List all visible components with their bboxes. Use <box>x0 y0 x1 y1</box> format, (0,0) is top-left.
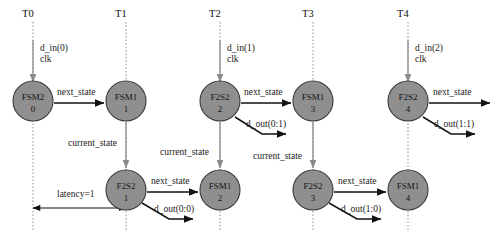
state-node-f2s2-2[interactable]: F2S22 <box>200 81 240 121</box>
state-node-index: 4 <box>406 193 411 203</box>
next-state-label-3: next_state <box>151 176 190 186</box>
state-node-fsm1-2[interactable]: FSM12 <box>200 170 240 210</box>
state-node-name: FSM1 <box>302 92 325 102</box>
data-output-label-2: d_out(0:0) <box>154 204 194 215</box>
state-node-f2s2-3[interactable]: F2S23 <box>293 170 333 210</box>
input-data-label-0: d_in(0) <box>40 43 68 54</box>
state-node-name: FSM2 <box>22 92 45 102</box>
state-node-name: F2S2 <box>210 92 229 102</box>
timeline-tick-label-t1: T1 <box>115 8 127 19</box>
diagram-canvas: d_in(0)clkd_in(1)clkd_in(2)clk current_s… <box>0 0 497 235</box>
state-node-fsm1-4[interactable]: FSM14 <box>388 170 428 210</box>
state-node-name: FSM1 <box>115 92 138 102</box>
fsm-timing-diagram: d_in(0)clkd_in(1)clkd_in(2)clk current_s… <box>0 0 497 235</box>
state-node-index: 1 <box>124 104 129 114</box>
current-state-label-1: current_state <box>160 147 209 157</box>
timeline-tick-label-t4: T4 <box>397 8 409 19</box>
state-node-index: 1 <box>124 193 129 203</box>
input-clock-label-1: clk <box>227 54 239 64</box>
state-node-index: 3 <box>311 193 316 203</box>
current-state-label-0: current_state <box>68 138 117 148</box>
state-node-fsm2-0[interactable]: FSM20 <box>13 81 53 121</box>
state-node-index: 3 <box>311 104 316 114</box>
timeline-tick-label-t3: T3 <box>302 8 314 19</box>
state-node-index: 2 <box>218 193 223 203</box>
data-output-label-3: d_out(1:0) <box>341 204 381 215</box>
state-node-f2s2-4[interactable]: F2S24 <box>388 81 428 121</box>
input-signals-layer: d_in(0)clkd_in(1)clkd_in(2)clk <box>33 40 443 82</box>
state-node-index: 2 <box>218 104 223 114</box>
current-state-label-2: current_state <box>253 151 302 161</box>
next-state-label-2: next_state <box>433 87 472 97</box>
next-state-label-1: next_state <box>244 87 283 97</box>
next-state-label-4: next_state <box>338 176 377 186</box>
state-node-name: FSM1 <box>397 181 420 191</box>
state-node-name: F2S2 <box>398 92 417 102</box>
state-node-f2s2-1[interactable]: F2S21 <box>106 170 146 210</box>
state-node-index: 4 <box>406 104 411 114</box>
data-output-label-0: d_out(0:1) <box>246 119 286 130</box>
state-node-name: F2S2 <box>303 181 322 191</box>
state-node-fsm1-1[interactable]: FSM11 <box>106 81 146 121</box>
timeline-tick-label-t2: T2 <box>209 8 221 19</box>
next-state-label-0: next_state <box>57 87 96 97</box>
input-clock-label-2: clk <box>415 54 427 64</box>
input-data-label-2: d_in(2) <box>415 43 443 54</box>
state-node-fsm1-3[interactable]: FSM13 <box>293 81 333 121</box>
latency-label: latency=1 <box>57 189 95 199</box>
timeline-tick-labels-layer: T0T1T2T3T4 <box>22 8 409 19</box>
state-node-index: 0 <box>31 104 36 114</box>
state-node-name: FSM1 <box>209 181 232 191</box>
data-output-label-1: d_out(1:1) <box>434 119 474 130</box>
state-node-name: F2S2 <box>116 181 135 191</box>
input-clock-label-0: clk <box>40 54 52 64</box>
input-data-label-1: d_in(1) <box>227 43 255 54</box>
timeline-tick-label-t0: T0 <box>22 8 34 19</box>
